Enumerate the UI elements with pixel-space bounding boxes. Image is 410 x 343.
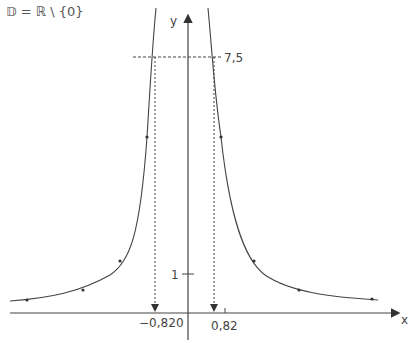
origin-label: 0 [176,316,184,330]
x-neg-label: −0,82 [139,316,176,330]
y-tick-1-label: 1 [171,268,179,282]
y-axis-label: y [170,14,177,28]
graph: x y 0 1 7,5 −0,82 0,82 [0,0,410,343]
level-label: 7,5 [224,51,243,65]
x-pos-label: 0,82 [211,319,238,333]
x-axis-label: x [401,313,408,327]
data-points [25,135,373,301]
left-branch [10,8,156,301]
